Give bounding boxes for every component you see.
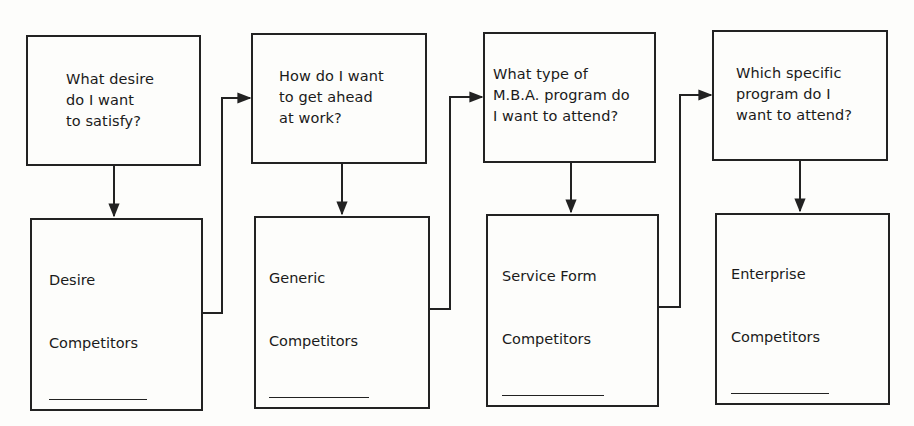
title-underline: [502, 395, 604, 396]
competitor-type-title: Generic Competitors: [269, 226, 402, 394]
question-box-service-form: What type of M.B.A. program do I want to…: [483, 32, 656, 163]
question-text: What type of M.B.A. program do I want to…: [493, 64, 630, 127]
question-text: Which specific program do I want to atte…: [736, 63, 852, 126]
connector-stage-3-to-4: [658, 95, 711, 307]
question-box-generic: How do I want to get ahead at work?: [251, 33, 427, 164]
connector-stage-2-to-3: [429, 97, 482, 309]
competitor-type-title: Service Form Competitors: [502, 224, 629, 392]
connector-stage-1-to-2: [203, 98, 250, 313]
question-text: What desire do I want to satisfy?: [66, 69, 154, 132]
competitor-type-title: Desire Competitors: [49, 228, 168, 396]
title-underline: [269, 397, 369, 398]
competitors-box-enterprise: Enterprise Competitors Northwestern Univ…: [715, 213, 890, 405]
competitor-list: Northwestern Univ. of Chicago DePaul Loy…: [733, 397, 850, 426]
competitor-list: Read books on management Work longer hou…: [269, 401, 402, 426]
question-text: How do I want to get ahead at work?: [279, 66, 384, 129]
question-box-enterprise: Which specific program do I want to atte…: [712, 30, 888, 161]
competitors-box-service-form: Service Form Competitors Private univers…: [486, 214, 659, 407]
title-underline: [49, 399, 147, 400]
competitors-box-generic: Generic Competitors Read books on manage…: [254, 216, 430, 409]
competitor-list: Private university State university: [502, 399, 629, 426]
competitor-type-title: Enterprise Competitors: [731, 222, 850, 390]
title-underline: [731, 393, 829, 394]
question-box-desire: What desire do I want to satisfy?: [26, 35, 201, 166]
competitors-box-desire: Desire Competitors Get ahead at work Tra…: [30, 218, 203, 411]
competitor-list: Get ahead at work Travel in Europe Run i…: [51, 403, 168, 426]
